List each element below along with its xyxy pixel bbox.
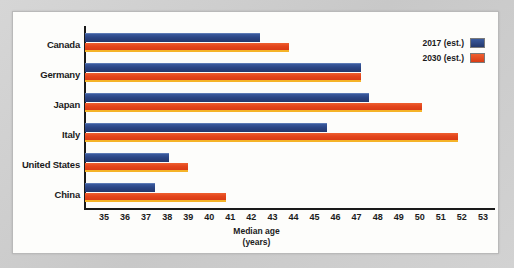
category-label-canada: Canada [0, 39, 80, 50]
plot-area: CanadaGermanyJapanItalyUnited StatesChin… [13, 12, 500, 255]
category-label-japan: Japan [0, 99, 80, 110]
bar-2017-china [85, 183, 155, 192]
x-tick-52: 52 [451, 212, 473, 222]
category-label-germany: Germany [0, 69, 80, 80]
bar-2017-canada [85, 33, 260, 42]
bar-2030-china [85, 193, 226, 202]
bar-2017-united-states [85, 153, 169, 162]
x-tick-47: 47 [346, 212, 368, 222]
bar-2030-italy [85, 133, 458, 142]
x-tick-39: 39 [177, 212, 199, 222]
x-tick-48: 48 [367, 212, 389, 222]
bar-2017-japan [85, 93, 369, 102]
bar-2030-united-states [85, 163, 188, 172]
chart-panel: CanadaGermanyJapanItalyUnited StatesChin… [12, 11, 499, 254]
category-label-china: China [0, 189, 80, 200]
x-axis-title: Median age (years) [13, 226, 500, 247]
bar-row: Japan [13, 90, 500, 120]
bar-2017-italy [85, 123, 327, 132]
x-axis-title-line-2: (years) [13, 237, 500, 248]
bar-2030-japan [85, 103, 422, 112]
chart-legend: 2017 (est.)2030 (est.) [373, 36, 485, 66]
figure-root: CanadaGermanyJapanItalyUnited StatesChin… [0, 0, 514, 268]
x-tick-37: 37 [135, 212, 157, 222]
legend-swatch-blue [470, 38, 485, 48]
bar-2030-germany [85, 73, 361, 82]
x-axis-title-line-1: Median age [13, 226, 500, 237]
x-tick-41: 41 [219, 212, 241, 222]
x-tick-49: 49 [388, 212, 410, 222]
bar-row: China [13, 180, 500, 210]
bar-2030-canada [85, 43, 289, 52]
legend-item: 2017 (est.) [373, 36, 485, 49]
legend-swatch-orange [470, 53, 485, 63]
category-label-united-states: United States [0, 159, 80, 170]
legend-item: 2030 (est.) [373, 51, 485, 64]
legend-label: 2017 (est.) [422, 38, 464, 48]
x-tick-40: 40 [198, 212, 220, 222]
x-tick-51: 51 [430, 212, 452, 222]
bar-2017-germany [85, 63, 361, 72]
bar-row: Italy [13, 120, 500, 150]
x-tick-35: 35 [93, 212, 115, 222]
x-tick-53: 53 [472, 212, 494, 222]
category-label-italy: Italy [0, 129, 80, 140]
bar-row: United States [13, 150, 500, 180]
x-tick-44: 44 [282, 212, 304, 222]
x-tick-43: 43 [261, 212, 283, 222]
x-tick-38: 38 [156, 212, 178, 222]
x-tick-46: 46 [325, 212, 347, 222]
x-tick-45: 45 [304, 212, 326, 222]
legend-label: 2030 (est.) [422, 53, 464, 63]
x-tick-42: 42 [240, 212, 262, 222]
x-tick-50: 50 [409, 212, 431, 222]
x-tick-36: 36 [114, 212, 136, 222]
